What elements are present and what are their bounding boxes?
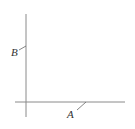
point-b-leader xyxy=(19,46,26,50)
point-a-leader xyxy=(77,102,86,110)
point-a-label: A xyxy=(66,108,74,120)
point-b-label: B xyxy=(11,46,18,58)
axes-diagram: B A xyxy=(0,0,135,129)
